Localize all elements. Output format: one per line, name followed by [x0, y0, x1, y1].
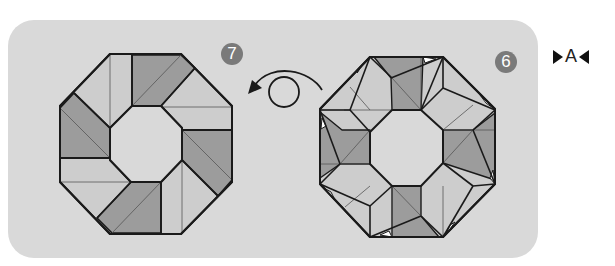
triangle-left-icon [579, 50, 589, 64]
triangle-right-icon [553, 50, 563, 64]
step-6-octagon [320, 57, 495, 237]
step-7-octagon [60, 54, 232, 234]
step-6-badge: 6 [495, 51, 517, 73]
section-letter: A [565, 46, 577, 67]
step-7-badge: 7 [221, 43, 243, 65]
section-label: A [553, 46, 589, 67]
origami-diagram [0, 0, 615, 266]
turn-over-arrow-icon [248, 71, 322, 107]
